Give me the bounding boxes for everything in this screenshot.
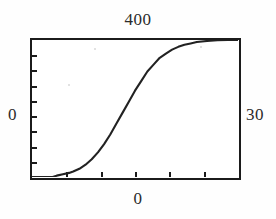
axis-label-right: 30 [246,106,264,123]
plot-frame [30,38,241,180]
axis-label-bottom: 0 [0,190,276,207]
x-axis-ticks [67,172,205,177]
scan-speckle [200,46,202,48]
y-axis-ticks [32,56,37,163]
plot-area [32,40,238,177]
figure-root: 0 400 0 30 0 [0,0,276,219]
axis-label-left: 0 [8,106,17,123]
sigmoid-curve [32,40,238,177]
scan-speckle [68,84,70,86]
axis-label-top: 400 [0,11,276,28]
scan-speckle [94,48,96,50]
